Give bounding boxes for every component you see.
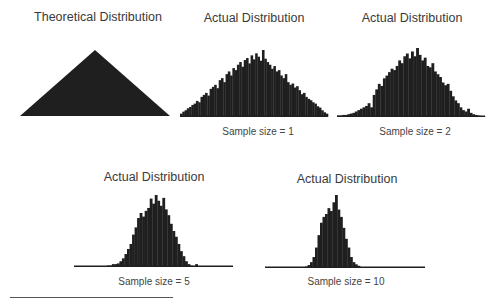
sample-size-label-10: Sample size = 10 <box>308 276 385 287</box>
sample-size-label-2: Sample size = 2 <box>379 126 450 137</box>
footnote-divider <box>10 297 173 298</box>
theoretical-triangle <box>20 50 170 116</box>
plot-title-theoretical: Theoretical Distribution <box>34 10 162 24</box>
plot-title-sample-1: Actual Distribution <box>204 11 305 25</box>
plot-title-sample-2: Actual Distribution <box>362 11 463 25</box>
histogram-4 <box>265 195 425 268</box>
sample-size-label-5: Sample size = 5 <box>118 276 189 287</box>
histogram-1 <box>180 50 328 117</box>
sample-size-label-1: Sample size = 1 <box>222 126 293 137</box>
plot-title-sample-5: Actual Distribution <box>104 170 205 184</box>
histogram-2 <box>337 48 485 117</box>
distribution-plots <box>0 0 500 302</box>
histogram-3 <box>74 195 233 267</box>
plot-title-sample-10: Actual Distribution <box>297 172 398 186</box>
